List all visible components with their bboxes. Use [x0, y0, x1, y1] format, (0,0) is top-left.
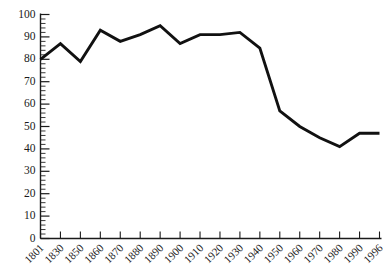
y-tick-label: 50 — [24, 120, 36, 132]
y-tick-label: 80 — [24, 52, 36, 64]
x-tick-label: 1890 — [142, 241, 166, 265]
y-tick-label: 40 — [24, 142, 36, 154]
x-tick-label: 1920 — [201, 241, 225, 265]
x-tick-label: 1996 — [361, 241, 385, 265]
x-tick-label: 1870 — [102, 241, 126, 265]
x-tick-label: 1930 — [221, 241, 245, 265]
line-chart: 0102030405060708090100 18011830185018601… — [0, 0, 392, 276]
x-tick-label: 1860 — [82, 241, 106, 265]
y-axis-major-ticks — [41, 15, 50, 239]
y-tick-label: 100 — [18, 8, 36, 20]
x-tick-label: 1980 — [321, 241, 345, 265]
x-tick-label: 1850 — [62, 241, 86, 265]
y-tick-label: 20 — [24, 187, 36, 199]
y-axis-tick-labels: 0102030405060708090100 — [18, 8, 36, 244]
y-tick-label: 60 — [24, 97, 36, 109]
y-tick-label: 10 — [24, 209, 36, 221]
x-axis-ticks — [41, 232, 380, 239]
x-tick-label: 1970 — [301, 241, 325, 265]
x-tick-label: 1940 — [241, 241, 265, 265]
y-tick-label: 90 — [24, 30, 36, 42]
x-axis-tick-labels: 1801183018501860187018801890190019101920… — [22, 241, 385, 265]
data-series-line — [41, 26, 380, 147]
y-tick-label: 70 — [24, 75, 36, 87]
x-tick-label: 1950 — [261, 241, 285, 265]
x-tick-label: 1910 — [181, 241, 205, 265]
x-tick-label: 1801 — [22, 241, 46, 265]
x-tick-label: 1880 — [122, 241, 146, 265]
x-tick-label: 1830 — [42, 241, 66, 265]
x-tick-label: 1990 — [341, 241, 365, 265]
y-tick-label: 30 — [24, 164, 36, 176]
y-tick-label: 0 — [30, 232, 36, 244]
x-tick-label: 1960 — [281, 241, 305, 265]
x-tick-label: 1900 — [161, 241, 185, 265]
chart-canvas: 0102030405060708090100 18011830185018601… — [0, 0, 392, 276]
